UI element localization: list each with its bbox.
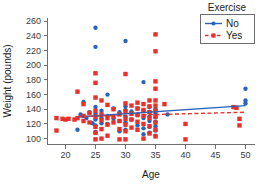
data-point	[141, 80, 145, 84]
data-point	[243, 87, 247, 91]
data-point	[153, 79, 157, 83]
data-point	[129, 117, 133, 121]
data-point	[93, 71, 97, 75]
data-point	[99, 127, 103, 131]
data-point	[237, 117, 241, 121]
data-point	[54, 128, 58, 132]
y-tick-group: 100120140160180200220240260	[26, 16, 48, 143]
y-tick-label: 100	[26, 134, 41, 144]
data-point	[183, 137, 187, 141]
data-point	[153, 98, 157, 102]
data-point	[93, 45, 97, 49]
chart-canvas: 100120140160180200220240260 202530354045…	[0, 0, 262, 187]
legend-marker-square-icon	[211, 33, 215, 37]
data-point	[147, 124, 151, 128]
data-point	[141, 126, 145, 130]
data-point	[153, 103, 157, 107]
data-point	[153, 128, 157, 132]
x-axis: 20253035404550	[48, 145, 255, 161]
data-point	[105, 133, 109, 137]
data-point	[141, 108, 145, 112]
y-tick-label: 140	[26, 104, 41, 114]
data-point	[93, 95, 97, 99]
data-point	[135, 100, 139, 104]
y-tick-label: 200	[26, 60, 41, 70]
data-point	[105, 103, 109, 107]
data-point	[123, 122, 127, 126]
data-point	[66, 117, 70, 121]
data-point	[75, 89, 79, 93]
data-point	[123, 101, 127, 105]
data-point	[117, 119, 121, 123]
x-tick-label: 50	[240, 150, 250, 160]
data-point	[147, 104, 151, 108]
data-point	[135, 128, 139, 132]
data-point	[93, 125, 97, 129]
x-tick-label: 30	[120, 150, 130, 160]
data-point	[153, 32, 157, 36]
x-tick-label: 45	[210, 150, 220, 160]
data-point	[111, 120, 115, 124]
data-point	[99, 136, 103, 140]
data-point	[147, 98, 151, 102]
data-point	[123, 117, 127, 121]
data-point	[123, 72, 127, 76]
data-point	[99, 118, 103, 122]
y-axis: 100120140160180200220240260	[26, 16, 48, 144]
data-point	[81, 119, 85, 123]
data-point	[147, 116, 151, 120]
x-tick-label: 25	[90, 150, 100, 160]
data-point	[54, 116, 58, 120]
data-point	[153, 49, 157, 53]
y-tick-label: 260	[26, 16, 41, 26]
data-point	[87, 120, 91, 124]
data-point	[123, 39, 127, 43]
data-point	[93, 137, 97, 141]
legend-entry-label: Yes	[226, 30, 242, 41]
legend-marker-circle-icon	[211, 21, 215, 25]
y-tick-label: 240	[26, 31, 41, 41]
x-tick-label: 40	[180, 150, 190, 160]
scatter-plot-figure: 100120140160180200220240260 202530354045…	[0, 0, 262, 187]
data-point	[129, 103, 133, 107]
x-tick-label: 35	[150, 150, 160, 160]
x-tick-label: 20	[60, 150, 70, 160]
data-point	[87, 111, 91, 115]
data-point	[153, 120, 157, 124]
legend[interactable]: Exercise NoYes	[201, 2, 255, 44]
x-axis-title: Age	[142, 169, 160, 180]
data-point	[75, 128, 79, 132]
data-point	[135, 106, 139, 110]
data-point	[117, 137, 121, 141]
data-point	[129, 125, 133, 129]
data-point	[147, 131, 151, 135]
data-point	[237, 123, 241, 127]
data-point	[99, 98, 103, 102]
data-point	[105, 122, 109, 126]
y-tick-label: 180	[26, 75, 41, 85]
data-point	[93, 26, 97, 30]
data-point	[123, 137, 127, 141]
data-point	[123, 129, 127, 133]
legend-entry-label: No	[226, 18, 239, 29]
data-point	[141, 136, 145, 140]
data-point	[162, 102, 166, 106]
data-point	[141, 132, 145, 136]
data-point	[153, 134, 157, 138]
data-point	[105, 92, 109, 96]
data-point	[183, 122, 187, 126]
series-yes	[54, 32, 241, 141]
legend-title: Exercise	[208, 2, 247, 13]
y-tick-label: 160	[26, 90, 41, 100]
data-point	[141, 102, 145, 106]
x-tick-group: 20253035404550	[60, 145, 250, 161]
data-point	[117, 127, 121, 131]
data-point	[141, 122, 145, 126]
data-point	[111, 107, 115, 111]
data-point	[243, 101, 247, 105]
data-point	[93, 109, 97, 113]
y-tick-label: 220	[26, 46, 41, 56]
y-axis-title: Weight (pounds)	[2, 44, 13, 117]
data-point	[93, 81, 97, 85]
data-point	[81, 102, 85, 106]
